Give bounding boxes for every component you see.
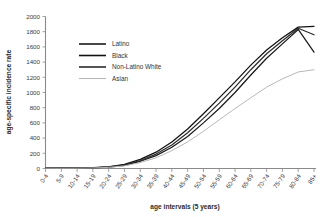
x-tick-label: 20-24: [98, 172, 113, 189]
y-tick-label: 1800: [26, 28, 40, 35]
y-tick-label: 1000: [26, 89, 40, 96]
y-tick-label: 600: [30, 119, 41, 126]
x-tick-label: 65-69: [240, 172, 255, 189]
y-tick-label: 2000: [26, 13, 40, 20]
x-tick-label: 60-64: [224, 172, 239, 189]
y-axis-title: age-specific incidence rate: [5, 50, 13, 135]
x-tick-label: 5-9: [54, 172, 65, 184]
x-tick-label: 70-74: [256, 172, 271, 189]
y-tick-label: 200: [30, 150, 41, 157]
y-tick-label: 0: [37, 165, 41, 172]
x-tick-label: 75-79: [271, 172, 286, 189]
y-axis-tick-labels: 0200400600800100012001400160018002000: [26, 13, 40, 172]
series-line-latino: [46, 29, 315, 168]
x-tick-label: 40-44: [161, 172, 176, 189]
x-tick-label: 15-19: [82, 172, 97, 189]
x-axis-title: age intervals (5 years): [150, 203, 219, 211]
series-line-non-latino-white: [46, 28, 315, 168]
x-tick-label: 55-59: [208, 172, 223, 189]
y-tick-label: 1400: [26, 58, 40, 65]
x-tick-label: 85+: [306, 172, 318, 185]
legend-label-latino: Latino: [112, 40, 130, 47]
series-line-asian: [46, 70, 315, 169]
y-tick-label: 800: [30, 104, 41, 111]
x-tick-label: 25-29: [113, 172, 128, 189]
x-tick-label: 0-4: [38, 172, 49, 184]
legend-label-black: Black: [112, 52, 128, 59]
x-tick-label: 45-49: [177, 172, 192, 189]
line-chart: 0200400600800100012001400160018002000 0-…: [0, 0, 324, 217]
y-tick-label: 1200: [26, 74, 40, 81]
legend-label-asian: Asian: [112, 75, 128, 82]
y-tick-label: 1600: [26, 43, 40, 50]
x-tick-label: 80-84: [287, 172, 302, 189]
chart-container: 0200400600800100012001400160018002000 0-…: [0, 0, 324, 217]
y-tick-label: 400: [30, 134, 41, 141]
legend-label-non-latino-white: Non-Latino White: [112, 63, 162, 70]
data-series-group: [46, 26, 315, 168]
chart-legend: LatinoBlackNon-Latino WhiteAsian: [79, 40, 162, 82]
x-tick-label: 50-54: [192, 172, 207, 189]
x-tick-label: 10-14: [66, 172, 81, 189]
x-tick-label: 30-34: [129, 172, 144, 189]
x-axis-tick-labels: 0-45-910-1415-1920-2425-2930-3435-3940-4…: [38, 172, 318, 189]
x-tick-label: 35-39: [145, 172, 160, 189]
